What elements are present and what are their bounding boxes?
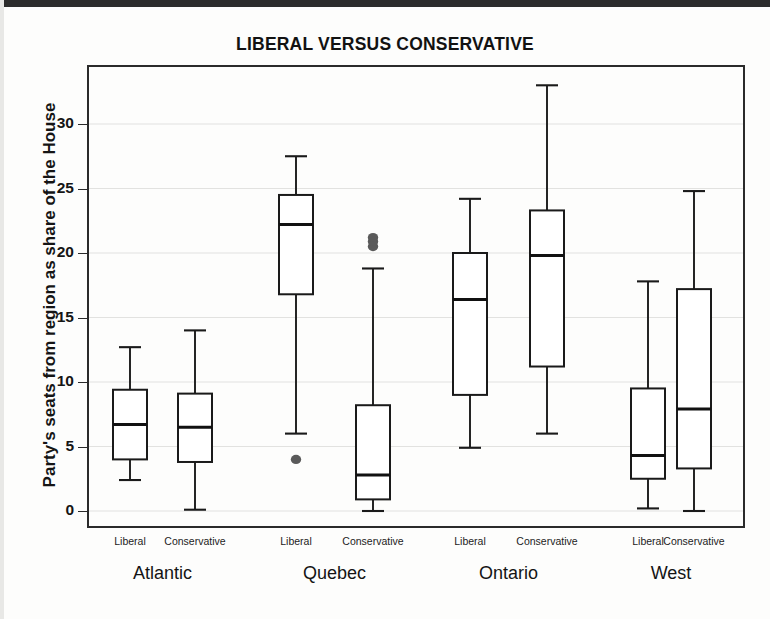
y-tick-label: 5 bbox=[40, 437, 74, 455]
box-iqr bbox=[453, 253, 487, 395]
y-tick-mark bbox=[78, 511, 88, 512]
y-tick-label: 30 bbox=[40, 114, 74, 132]
y-tick-label: 25 bbox=[40, 179, 74, 197]
box-iqr bbox=[631, 388, 665, 478]
box-iqr bbox=[677, 289, 711, 468]
party-label-conservative: Conservative bbox=[323, 535, 423, 547]
group-label-west: West bbox=[591, 563, 751, 584]
group-label-atlantic: Atlantic bbox=[83, 563, 243, 584]
y-tick-mark bbox=[78, 318, 88, 319]
group-label-ontario: Ontario bbox=[429, 563, 589, 584]
y-tick-mark bbox=[78, 189, 88, 190]
box-iqr bbox=[356, 405, 390, 499]
party-label-conservative: Conservative bbox=[145, 535, 245, 547]
y-tick-mark bbox=[78, 124, 88, 125]
plot-area bbox=[0, 0, 770, 619]
y-tick-label: 15 bbox=[40, 308, 74, 326]
boxplot-figure: LIBERAL VERSUS CONSERVATIVE Party's seat… bbox=[0, 0, 770, 619]
box-iqr bbox=[279, 195, 313, 294]
y-tick-label: 0 bbox=[40, 501, 74, 519]
box-iqr bbox=[530, 210, 564, 366]
y-tick-label: 20 bbox=[40, 243, 74, 261]
y-tick-mark bbox=[78, 253, 88, 254]
y-tick-label: 10 bbox=[40, 372, 74, 390]
group-label-quebec: Quebec bbox=[255, 563, 415, 584]
party-label-conservative: Conservative bbox=[644, 535, 744, 547]
y-tick-mark bbox=[78, 447, 88, 448]
outlier-point bbox=[368, 233, 378, 242]
y-tick-mark bbox=[78, 382, 88, 383]
party-label-conservative: Conservative bbox=[497, 535, 597, 547]
outlier-point bbox=[291, 455, 301, 464]
